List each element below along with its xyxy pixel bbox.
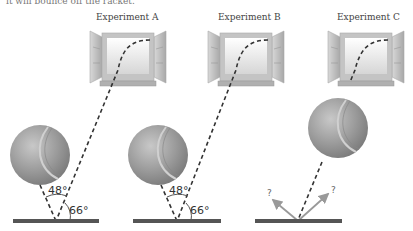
window-icon — [328, 31, 404, 86]
unknown-left-label: ? — [267, 188, 272, 198]
ground-surface — [133, 219, 221, 223]
tennis-ball-icon — [128, 125, 188, 185]
arrow-left-icon — [273, 200, 297, 220]
arrow-right-icon — [299, 194, 328, 220]
tennis-ball-icon — [10, 125, 70, 185]
experiment-a: 48° 66° — [10, 31, 166, 223]
ground-surface — [13, 219, 99, 223]
window-icon — [208, 31, 284, 86]
ground-surface — [255, 219, 342, 223]
incident-angle-label: 48° — [169, 184, 189, 197]
incident-angle-label: 48° — [48, 184, 68, 197]
ground-angle-label: 66° — [190, 204, 210, 217]
tennis-ball-icon — [308, 98, 368, 158]
window-icon — [90, 31, 166, 86]
unknown-right-label: ? — [331, 185, 336, 195]
diagram-canvas: 48° 66° 48° 66° ? ? — [0, 0, 413, 231]
ground-angle-label: 66° — [69, 204, 89, 217]
